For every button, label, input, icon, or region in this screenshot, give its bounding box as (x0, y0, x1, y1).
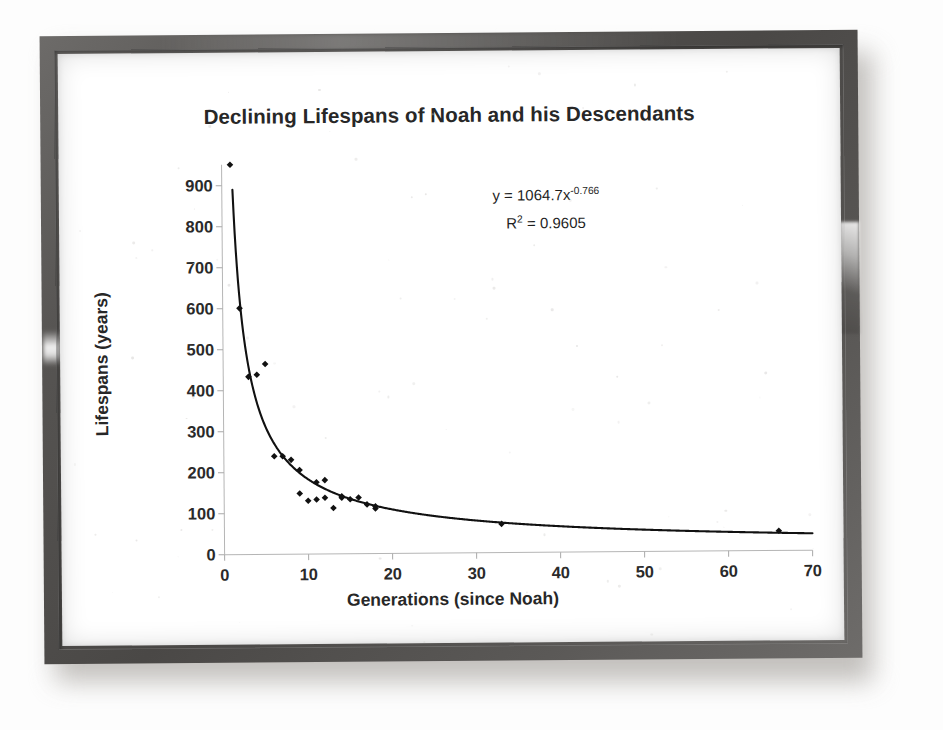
frame-glint-left (43, 331, 60, 365)
x-tick-label: 10 (300, 565, 319, 584)
plot-svg (222, 160, 813, 555)
x-tick-label: 70 (804, 561, 823, 580)
paper-speckle (387, 396, 389, 398)
chart-figure: Declining Lifespans of Noah and his Desc… (58, 48, 845, 646)
frame-glint-right (840, 222, 860, 334)
paper-speckle (413, 382, 416, 385)
y-tick-label: 800 (185, 217, 213, 236)
x-tick-label: 0 (220, 566, 229, 585)
paper-speckle (388, 259, 389, 260)
paper-speckle (375, 112, 377, 114)
paper-speckle (576, 345, 578, 347)
data-point-marker (347, 496, 354, 503)
y-tick-mark (217, 308, 223, 309)
trendline-curve (232, 185, 812, 538)
data-point-marker (364, 501, 371, 508)
paper-speckle (526, 592, 528, 594)
x-tick-label: 20 (384, 564, 403, 583)
x-tick-mark (644, 551, 645, 557)
y-tick-mark (218, 431, 224, 432)
y-axis-title: Lifespans (years) (91, 259, 114, 469)
paper-speckle (431, 113, 434, 116)
x-tick-label: 60 (720, 562, 739, 581)
paper-speckle (634, 84, 636, 86)
x-tick-mark (308, 554, 309, 560)
x-axis-title: Generations (since Noah) (62, 586, 844, 613)
x-tick-label: 50 (636, 562, 655, 581)
data-point-marker (262, 361, 269, 368)
paper-speckle (658, 567, 661, 570)
chart-title: Declining Lifespans of Noah and his Desc… (58, 100, 840, 130)
paper-speckle (569, 199, 572, 202)
paper-speckle (607, 580, 610, 583)
paper-speckle (808, 513, 811, 516)
y-tick-label: 200 (187, 463, 215, 482)
x-tick-mark (224, 555, 225, 561)
y-tick-label: 500 (186, 340, 214, 359)
data-point-marker (330, 505, 337, 512)
paper-speckle (325, 437, 327, 439)
x-tick-label: 30 (468, 564, 487, 583)
data-point-marker (322, 477, 329, 484)
x-tick-mark (560, 552, 561, 558)
data-point-marker (296, 490, 303, 497)
y-tick-mark (216, 226, 222, 227)
paper-speckle (94, 534, 96, 536)
y-tick-mark (217, 390, 223, 391)
y-tick-mark (218, 472, 224, 473)
y-tick-label: 300 (187, 422, 215, 441)
data-point-marker (236, 305, 243, 312)
paper-speckle (318, 89, 320, 91)
paper-speckle (571, 408, 574, 411)
x-tick-mark (728, 551, 729, 557)
data-point-marker (253, 371, 260, 378)
paper-speckle (151, 250, 153, 252)
y-tick-mark (216, 185, 222, 186)
y-tick-label: 400 (187, 381, 215, 400)
paper-speckle (436, 600, 439, 603)
paper-speckle (293, 406, 295, 408)
paper-speckle (618, 585, 621, 588)
data-point-marker (305, 497, 312, 504)
paper-speckle (228, 283, 231, 286)
x-tick-mark (812, 550, 813, 556)
data-point-marker (271, 453, 278, 460)
y-tick-label: 0 (206, 545, 215, 564)
x-tick-mark (476, 553, 477, 559)
y-tick-label: 600 (186, 299, 214, 318)
paper-speckle (493, 287, 496, 290)
y-tick-label: 700 (186, 258, 214, 277)
frame-mat: Declining Lifespans of Noah and his Desc… (58, 48, 845, 646)
paper-speckle (647, 402, 650, 405)
y-tick-label: 900 (185, 176, 213, 195)
paper-speckle (656, 188, 657, 189)
paper-speckle (533, 244, 535, 246)
data-point-marker (313, 496, 320, 503)
paper-speckle (423, 641, 425, 643)
y-tick-label: 100 (188, 504, 216, 523)
paper-speckle (538, 72, 541, 75)
paper-speckle (355, 158, 358, 161)
x-tick-label: 40 (552, 563, 571, 582)
paper-speckle (716, 521, 718, 523)
paper-speckle (180, 529, 182, 531)
paper-speckle (246, 337, 249, 340)
y-tick-mark (218, 513, 224, 514)
x-tick-mark (392, 553, 393, 559)
picture-frame: Declining Lifespans of Noah and his Desc… (40, 30, 863, 664)
y-tick-mark (217, 349, 223, 350)
paper-speckle (551, 309, 554, 312)
paper-speckle (209, 125, 211, 127)
paper-speckle (131, 356, 134, 359)
data-point-marker (227, 161, 234, 168)
data-point-marker (322, 494, 329, 501)
plot-area: 0100200300400500600700800900010203040506… (222, 160, 813, 555)
y-tick-mark (216, 267, 222, 268)
